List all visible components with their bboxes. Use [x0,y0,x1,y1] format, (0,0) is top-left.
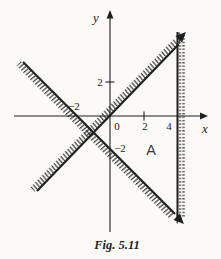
hatching-lower-left [16,61,174,219]
boundary-line-slope-minus-1 [16,61,175,220]
y-intercept-label-minus-2: −2 [114,142,126,154]
x-tick-label-2: 2 [142,120,148,132]
x-axis-arrowhead [200,113,208,120]
y-axis [106,10,115,232]
region-label-A: A [146,142,156,158]
x-intercept-label-minus-2: −2 [68,100,80,112]
figure-canvas: y x 0 2 4 2 −2 −2 A Fig. 5.11 [0,0,221,259]
y-tick-label-2: 2 [97,76,103,88]
figure-5-11: y x 0 2 4 2 −2 −2 A Fig. 5.11 [0,0,221,259]
boundary-line-x-equals-4 [178,32,185,218]
hatching-right [179,33,185,217]
y-axis-arrowhead [107,10,114,19]
hatching-upper-left [30,39,178,192]
y-axis-label: y [91,10,99,25]
x-tick-label-4: 4 [166,120,172,132]
x-axis-label: x [201,121,208,136]
origin-label: 0 [114,120,120,132]
figure-caption: Fig. 5.11 [93,238,140,252]
